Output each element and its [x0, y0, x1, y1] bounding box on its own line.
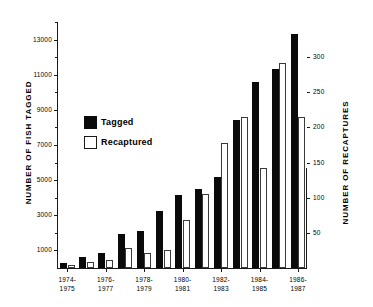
- y-axis-right-tick: [307, 57, 310, 58]
- bar-recaptured: [202, 194, 209, 268]
- y-axis-left-tick-label: 5000: [37, 176, 52, 183]
- y-axis-left-tick: [54, 250, 57, 251]
- y-axis-right-title: NUMBER OF RECAPTURES: [341, 73, 350, 253]
- x-axis-tick: [106, 269, 107, 272]
- bar-tagged: [118, 234, 125, 268]
- y-axis-right-tick-label: 200: [313, 123, 324, 130]
- bar-recaptured: [87, 262, 94, 268]
- x-axis-tick-label-line: 1977: [98, 285, 113, 292]
- y-axis-right-tick-label: 250: [313, 88, 324, 95]
- y-axis-left-tick-label: 13000: [33, 36, 52, 43]
- legend-item-tagged: Tagged: [84, 112, 153, 132]
- legend-label-recaptured: Recaptured: [101, 137, 153, 147]
- y-axis-left-minor-tick: [55, 22, 57, 23]
- bar-recaptured: [144, 253, 151, 268]
- bar-tagged: [137, 231, 144, 268]
- x-axis-tick-label-line: 1981: [175, 285, 190, 292]
- y-axis-left-spine: [57, 22, 58, 269]
- legend-label-tagged: Tagged: [101, 117, 134, 127]
- bar-tagged: [79, 257, 86, 268]
- bar-tagged: [98, 253, 105, 268]
- y-axis-right-tick-label: 300: [313, 53, 324, 60]
- x-axis-tick-label-line: 1982-: [212, 276, 230, 283]
- bar-tagged: [214, 177, 221, 268]
- x-axis-tick: [260, 269, 261, 272]
- y-axis-right-tick: [307, 92, 310, 93]
- y-axis-left-tick: [54, 40, 57, 41]
- x-axis-tick-label-line: 1980-: [174, 276, 192, 283]
- y-axis-left-tick: [54, 215, 57, 216]
- x-axis-tick-label: 1974-1975: [47, 275, 87, 293]
- y-axis-right-tick-label: 50: [313, 229, 321, 236]
- bar-recaptured: [221, 143, 228, 268]
- x-axis-tick-label: 1984-1985: [240, 275, 280, 293]
- bar-tagged: [175, 195, 182, 268]
- y-axis-left-minor-tick: [55, 57, 57, 58]
- x-axis-tick-label-line: 1986-: [289, 276, 307, 283]
- x-axis-tick: [183, 269, 184, 272]
- y-axis-right-tick-label: 150: [313, 159, 324, 166]
- bar-recaptured: [164, 250, 171, 268]
- legend-item-recaptured: Recaptured: [84, 132, 153, 152]
- x-axis-tick-label-line: 1975: [60, 285, 75, 292]
- chart-figure: NUMBER OF FISH TAGGED NUMBER OF RECAPTUR…: [0, 0, 373, 307]
- x-axis-tick-label-line: 1983: [213, 285, 228, 292]
- y-axis-right-spine: [306, 168, 307, 269]
- bar-recaptured: [183, 220, 190, 268]
- bar-recaptured: [279, 63, 286, 268]
- y-axis-right-tick-label: 100: [313, 194, 324, 201]
- y-axis-left-minor-tick: [55, 198, 57, 199]
- y-axis-right-tick: [307, 233, 310, 234]
- x-axis-tick-label-line: 1987: [290, 285, 305, 292]
- bar-recaptured: [68, 265, 75, 269]
- legend-swatch-tagged-icon: [84, 116, 97, 129]
- x-axis-tick-label-line: 1974-: [58, 276, 76, 283]
- x-axis-tick: [298, 269, 299, 272]
- x-axis-tick-label: 1976-1977: [86, 275, 126, 293]
- x-axis-tick-label: 1980-1981: [163, 275, 203, 293]
- x-axis-tick-label-line: 1976-: [97, 276, 115, 283]
- y-axis-left-tick-label: 1000: [37, 246, 52, 253]
- bar-recaptured: [260, 168, 267, 268]
- y-axis-left-minor-tick: [55, 127, 57, 128]
- bar-recaptured: [298, 117, 305, 268]
- x-axis-tick-label-line: 1984-: [251, 276, 269, 283]
- y-axis-left-title: NUMBER OF FISH TAGGED: [24, 53, 33, 233]
- y-axis-right-tick: [307, 127, 310, 128]
- y-axis-left-minor-tick: [55, 92, 57, 93]
- bar-tagged: [272, 69, 279, 268]
- x-axis-tick-label: 1982-1983: [201, 275, 241, 293]
- y-axis-left-tick-label: 3000: [37, 211, 52, 218]
- bar-recaptured: [125, 248, 132, 268]
- y-axis-right-tick: [307, 163, 310, 164]
- y-axis-left-tick: [54, 180, 57, 181]
- bar-tagged: [60, 263, 67, 268]
- x-axis-tick-label-line: 1985: [252, 285, 267, 292]
- x-axis-tick-label: 1978-1979: [124, 275, 164, 293]
- chart-legend: Tagged Recaptured: [84, 112, 153, 152]
- bar-recaptured: [241, 117, 248, 268]
- x-axis-tick: [67, 269, 68, 272]
- bar-recaptured: [106, 260, 113, 268]
- bar-tagged: [252, 82, 259, 268]
- bar-tagged: [291, 34, 298, 268]
- y-axis-left-tick: [54, 145, 57, 146]
- x-axis-tick: [221, 269, 222, 272]
- y-axis-right-tick: [307, 198, 310, 199]
- bar-tagged: [156, 211, 163, 268]
- y-axis-left-tick-label: 11000: [33, 71, 52, 78]
- y-axis-left-tick: [54, 110, 57, 111]
- x-axis-tick-label: 1986-1987: [278, 275, 318, 293]
- x-axis-tick-label-line: 1978-: [135, 276, 153, 283]
- bar-tagged: [195, 189, 202, 268]
- bar-tagged: [233, 120, 240, 268]
- x-axis-tick-label-line: 1979: [137, 285, 152, 292]
- y-axis-left-tick-label: 9000: [37, 106, 52, 113]
- y-axis-left-minor-tick: [55, 163, 57, 164]
- y-axis-left-tick: [54, 75, 57, 76]
- legend-swatch-recaptured-icon: [84, 136, 97, 149]
- x-axis-tick: [144, 269, 145, 272]
- y-axis-left-tick-label: 7000: [37, 141, 52, 148]
- y-axis-left-minor-tick: [55, 233, 57, 234]
